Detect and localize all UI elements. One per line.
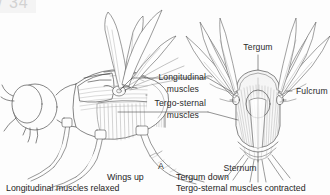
label-tergum: Tergum (243, 42, 272, 52)
label-tergosternal-line1: Tergo-sternal (155, 98, 206, 108)
caption-left-line2: Longitudinal muscles relaxed (6, 183, 119, 194)
panel-letter-a: A (158, 161, 164, 171)
caption-right-line2: Tergo-sternal muscles contracted (176, 183, 306, 194)
caption-left-line1: Wings up (107, 172, 144, 183)
label-fulcrum: Fulcrum (296, 86, 328, 96)
label-longitudinal-line2: muscles (167, 84, 199, 94)
figure-page: / 34 (0, 0, 330, 195)
label-tergosternal-line2: muscles (167, 110, 199, 120)
scan-artifact (0, 0, 36, 13)
label-longitudinal-line1: Longitudinal (158, 72, 206, 82)
caption-right-line1: Tergum down (176, 172, 229, 183)
